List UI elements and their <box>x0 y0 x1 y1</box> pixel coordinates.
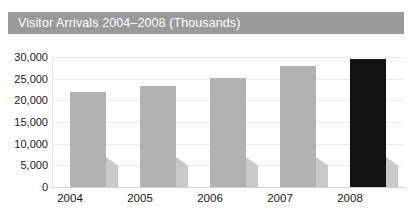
plot-area <box>52 57 404 187</box>
bar-shadow-2005 <box>176 157 188 187</box>
y-tick-label-20000: 20,000 <box>0 95 48 106</box>
bar-shadow-2004 <box>106 157 118 187</box>
bar-shadow-2006 <box>246 157 258 187</box>
y-tick-label-25000: 25,000 <box>0 73 48 84</box>
gridline-30000 <box>52 57 404 58</box>
y-tick-label-10000: 10,000 <box>0 138 48 149</box>
y-tick-label-5000: 5,000 <box>0 160 48 171</box>
y-tick-label-0: 0 <box>0 182 48 193</box>
visitor-arrivals-bar-chart: Visitor Arrivals 2004–2008 (Thousands) 3… <box>0 0 412 223</box>
y-tick-label-30000: 30,000 <box>0 52 48 63</box>
x-axis-baseline <box>52 187 404 188</box>
x-tick-label-2006: 2006 <box>182 193 238 205</box>
x-tick-label-2007: 2007 <box>252 193 308 205</box>
x-tick-label-2005: 2005 <box>112 193 168 205</box>
chart-title-bar: Visitor Arrivals 2004–2008 (Thousands) <box>8 12 404 34</box>
x-tick-label-2004: 2004 <box>42 193 98 205</box>
y-tick-label-15000: 15,000 <box>0 117 48 128</box>
bar-2008 <box>350 59 386 187</box>
bar-2004 <box>70 92 106 187</box>
bar-2005 <box>140 86 176 187</box>
x-tick-label-2008: 2008 <box>322 193 378 205</box>
bar-2007 <box>280 66 316 187</box>
bar-2006 <box>210 78 246 187</box>
bar-shadow-2007 <box>316 157 328 187</box>
chart-title: Visitor Arrivals 2004–2008 (Thousands) <box>18 17 240 30</box>
bar-shadow-2008 <box>386 157 398 187</box>
